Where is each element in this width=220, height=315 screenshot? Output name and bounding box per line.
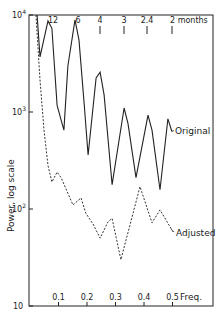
x-tick-label: 0.5 bbox=[166, 293, 179, 302]
y-tick-label: 10 bbox=[13, 302, 23, 311]
top-period-axis: 126432.42 months bbox=[48, 16, 208, 34]
y-tick-label: 104 bbox=[12, 8, 26, 20]
period-tick-label: 3 bbox=[121, 16, 126, 25]
x-tick-label: 0.4 bbox=[138, 293, 151, 302]
x-tick-label: 0.1 bbox=[52, 293, 65, 302]
period-tick-label: 2 months bbox=[170, 16, 208, 25]
x-tick-label: 0.2 bbox=[81, 293, 94, 302]
plot-frame bbox=[29, 15, 213, 306]
original-series-label: Original bbox=[175, 126, 210, 136]
original-series-line bbox=[37, 15, 172, 190]
adjusted-label-leader bbox=[171, 229, 175, 233]
y-tick-label: 103 bbox=[12, 105, 26, 117]
y-axis-label: Power, log scale bbox=[6, 159, 16, 232]
period-tick-label: 2.4 bbox=[141, 16, 154, 25]
period-tick-label: 4 bbox=[97, 16, 102, 25]
adjusted-series-label: Adjusted bbox=[176, 228, 215, 238]
x-axis-label: Freq. bbox=[180, 292, 202, 302]
x-axis-ticks: 0.10.20.30.40.5 bbox=[52, 293, 179, 306]
original-label-leader bbox=[172, 130, 174, 131]
power-spectrum-chart: 10102103104 0.10.20.30.40.5 126432.42 mo… bbox=[0, 0, 220, 315]
x-tick-label: 0.3 bbox=[109, 293, 122, 302]
